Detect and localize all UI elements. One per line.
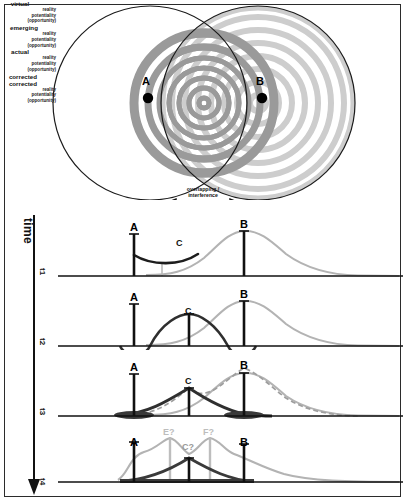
panel-t2-plot [58,288,403,350]
panel-t2-node-label: C [185,307,192,316]
panel-t4-plot [58,424,403,490]
panel-t3-time-label: t3 [38,408,46,415]
panel-t2-label-b: B [240,289,248,300]
panel-t3-label-a: A [130,362,138,373]
source-b-dot [257,93,267,103]
panel-t2-label-a: A [130,292,138,303]
panel-t3-label-b: B [240,360,248,371]
time-axis [22,213,62,503]
label-source-a: A [142,76,150,87]
panel-t1-label-a: A [130,222,138,233]
virtual-arc-t1 [134,254,198,263]
panel-t4-label-f: F? [203,428,214,437]
panel-t4-node-label: C? [182,443,194,452]
panel-t4-label-e: E? [163,428,175,437]
panel-t1-plot [58,218,403,280]
panel-t4-label-a: A [130,437,138,448]
interference-diagram [0,0,407,200]
panel-t2-time-label: t2 [38,338,46,345]
potentiality-curve-t1 [146,231,399,276]
potentiality-curve-t4 [118,438,399,482]
panel-t4-time-label: t4 [38,478,46,485]
panel-t3-plot [58,358,403,420]
figure-root: A B overlapping / interference time A B … [0,0,407,503]
overlap-arrow [166,199,240,200]
panel-t4-label-b: B [240,437,248,448]
time-axis-label: time [22,218,34,244]
potentiality-curve-t3 [146,373,399,416]
potentiality-curve-t2 [146,301,399,346]
overlap-label-line2: interference [172,192,234,198]
label-source-b: B [256,76,264,87]
panel-t3-node-label: C [185,377,192,386]
panel-t1-time-label: t1 [38,268,46,275]
source-a-dot [143,93,153,103]
panel-t1-node-label: C [176,239,183,248]
reality-hump-t4 [120,458,254,482]
dashed-curve-t3 [134,368,358,416]
panel-t1-label-b: B [240,219,248,230]
